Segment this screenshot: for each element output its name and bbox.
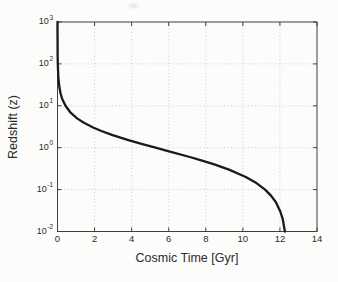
x-tick-label: 8 [191,234,221,244]
data-curve [58,22,285,232]
x-tick-label: 4 [117,234,147,244]
axis-box [58,22,318,232]
y-tick-label: 103 [0,15,53,28]
x-tick-label: 14 [302,234,332,244]
figure: 10310210110010-110-2 02468101214 Redshif… [0,0,338,282]
x-tick-label: 12 [265,234,295,244]
y-tick-label: 102 [0,57,53,70]
y-tick-label: 10-1 [0,183,53,196]
x-tick-label: 0 [43,234,73,244]
x-tick-label: 6 [154,234,184,244]
x-axis-title: Cosmic Time [Gyr] [107,251,267,265]
x-tick-label: 2 [80,234,110,244]
x-tick-label: 10 [228,234,258,244]
y-axis-title: Redshift (z) [6,95,20,159]
